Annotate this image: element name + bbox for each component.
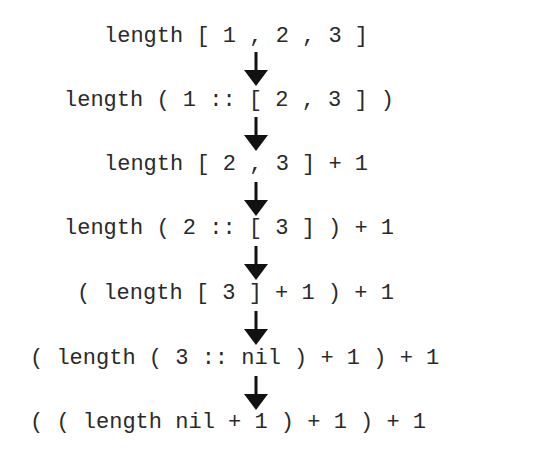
step-4-expression: length ( 2 :: [ 3 ] ) + 1 [64, 216, 394, 242]
down-arrow-icon [244, 182, 268, 216]
step-5-expression: ( length [ 3 ] + 1 ) + 1 [77, 281, 394, 307]
step-1-expression: length [ 1 , 2 , 3 ] [104, 24, 368, 50]
down-arrow-icon [244, 246, 268, 280]
down-arrow-icon [244, 311, 268, 345]
step-2-expression: length ( 1 :: [ 2 , 3 ] ) [64, 88, 394, 114]
down-arrow-icon [244, 117, 268, 151]
step-6-expression: ( length ( 3 :: nil ) + 1 ) + 1 [30, 346, 439, 372]
step-7-expression: ( ( length nil + 1 ) + 1 ) + 1 [30, 410, 426, 436]
down-arrow-icon [244, 52, 268, 86]
down-arrow-icon [244, 376, 268, 410]
evaluation-trace-diagram: length [ 1 , 2 , 3 ] length ( 1 :: [ 2 ,… [0, 0, 543, 459]
step-3-expression: length [ 2 , 3 ] + 1 [104, 152, 368, 178]
